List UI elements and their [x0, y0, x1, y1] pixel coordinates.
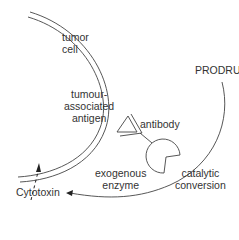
- label-enzyme: exogenous enzyme: [95, 167, 146, 191]
- arrowhead-cytotoxin: [66, 190, 73, 196]
- label-cytotoxin: Cytotoxin: [16, 186, 60, 198]
- label-antibody: antibody: [140, 118, 180, 130]
- label-tumor: tumor: [62, 31, 89, 43]
- label-antigen-line1: tumour-: [64, 88, 114, 100]
- label-antigen-line3: antigen: [64, 112, 114, 124]
- label-tumor-cell: tumor cell: [62, 31, 89, 55]
- label-enzyme-line2: enzyme: [95, 179, 146, 191]
- label-antigen: tumour- associated antigen: [64, 88, 114, 124]
- label-conversion-line2: conversion: [175, 179, 226, 191]
- antigen-icon: [117, 114, 142, 136]
- label-conversion: catalytic conversion: [175, 167, 226, 191]
- label-antigen-line2: associated: [64, 100, 114, 112]
- label-enzyme-line1: exogenous: [95, 167, 146, 179]
- label-prodrug: PRODRUG: [195, 64, 239, 76]
- label-conversion-line1: catalytic: [175, 167, 226, 179]
- label-cell: cell: [62, 43, 89, 55]
- arrowhead-entry: [36, 163, 41, 172]
